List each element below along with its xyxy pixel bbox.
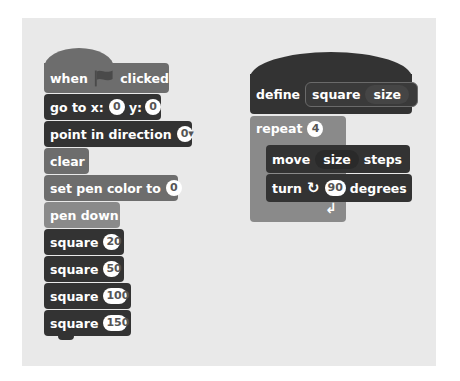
param-size[interactable]: size (365, 85, 408, 104)
x-input[interactable]: 0 (109, 99, 125, 115)
square-label: square (50, 289, 98, 304)
square-call-block[interactable]: square 150 (44, 310, 131, 336)
clear-block[interactable]: clear (44, 148, 89, 174)
point-label: point in direction (50, 127, 172, 142)
square-call-block[interactable]: square 20 (44, 229, 124, 255)
chevron-down-icon: ▾ (188, 127, 194, 140)
square-label: square (50, 262, 98, 277)
square-call-block[interactable]: square 50 (44, 256, 124, 282)
direction-dropdown[interactable]: 0▾ (177, 126, 193, 142)
go-to-xy-block[interactable]: go to x: 0 y: 0 (44, 94, 161, 120)
size-input[interactable]: 50 (103, 261, 120, 277)
block-notch (58, 336, 74, 340)
point-in-direction-block[interactable]: point in direction 0▾ (44, 121, 192, 147)
degrees-label: degrees (350, 181, 407, 196)
square-label: square (50, 235, 98, 250)
set-pen-color-block[interactable]: set pen color to 0 (44, 175, 178, 201)
pen-color-input[interactable]: 0 (166, 180, 182, 196)
degrees-input[interactable]: 90 (325, 180, 346, 196)
y-input[interactable]: 0 (145, 99, 161, 115)
pen-down-label: pen down (50, 208, 119, 223)
custom-block-prototype[interactable]: square size (305, 82, 418, 107)
green-flag-icon (93, 68, 115, 88)
when-flag-clicked-block[interactable]: when clicked (44, 63, 169, 93)
go-to-label: go to x: (50, 100, 104, 115)
rotate-clockwise-icon: ↻ (307, 179, 320, 197)
turn-degrees-block[interactable]: turn ↻ 90 degrees (266, 174, 412, 202)
size-input[interactable]: 150 (103, 315, 127, 331)
turn-label: turn (272, 181, 302, 196)
define-label: define (256, 87, 300, 102)
pen-down-block[interactable]: pen down (44, 202, 120, 228)
move-label: move (272, 152, 310, 167)
define-block[interactable]: define square size (250, 74, 412, 114)
size-input[interactable]: 20 (103, 234, 120, 250)
when-label: when (50, 71, 88, 86)
clear-label: clear (50, 154, 85, 169)
repeat-label: repeat (256, 121, 302, 136)
loop-arrow-icon: ↲ (325, 200, 337, 216)
repeat-count-input[interactable]: 4 (307, 121, 323, 137)
square-call-block[interactable]: square 100 (44, 283, 131, 309)
size-reporter[interactable]: size (315, 150, 358, 169)
size-input[interactable]: 100 (103, 288, 127, 304)
square-label: square (50, 316, 98, 331)
move-steps-block[interactable]: move size steps (266, 145, 410, 173)
clicked-label: clicked (120, 71, 169, 86)
set-pen-label: set pen color to (50, 181, 161, 196)
steps-label: steps (364, 152, 402, 167)
y-label: y: (129, 100, 142, 115)
block-name: square (312, 87, 360, 102)
